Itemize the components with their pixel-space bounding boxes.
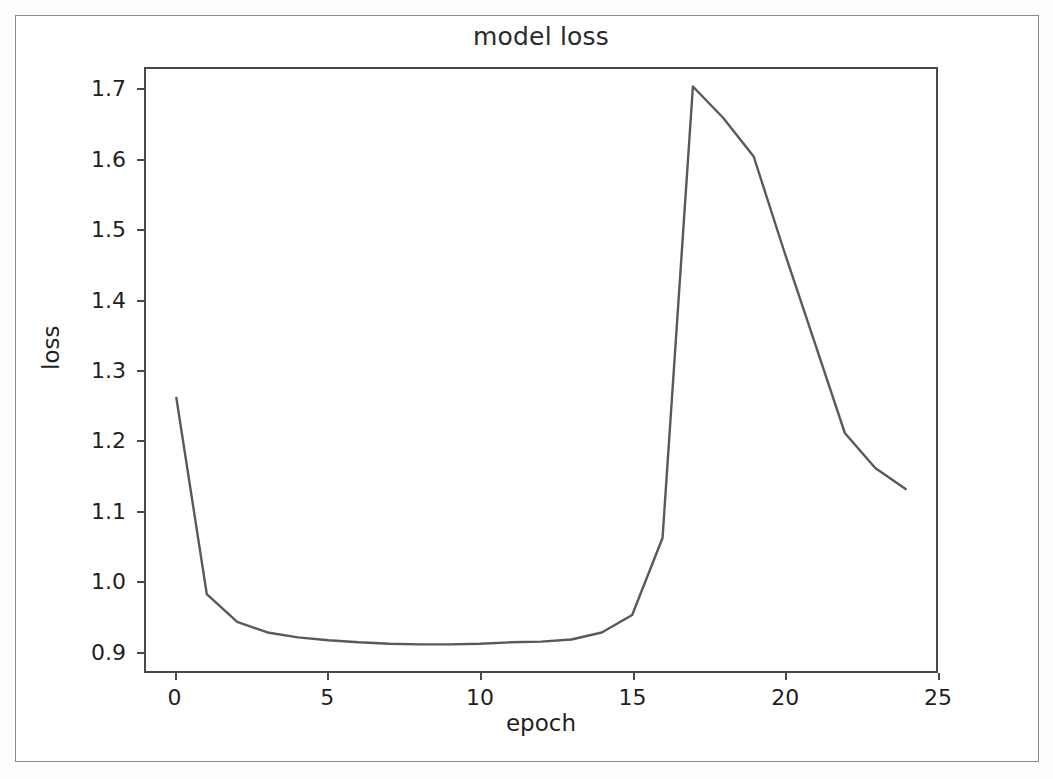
x-tick-mark bbox=[938, 673, 940, 680]
y-tick-mark bbox=[137, 229, 144, 231]
y-tick-label: 1.7 bbox=[64, 76, 126, 101]
loss-line-series bbox=[176, 87, 905, 645]
x-tick-mark bbox=[633, 673, 635, 680]
x-tick-label: 20 bbox=[755, 685, 815, 710]
matplotlib-figure: model loss 0.91.01.11.21.31.41.51.61.7 0… bbox=[0, 0, 1053, 779]
x-tick-label: 10 bbox=[450, 685, 510, 710]
x-tick-mark bbox=[480, 673, 482, 680]
y-tick-mark bbox=[137, 159, 144, 161]
y-tick-mark bbox=[137, 88, 144, 90]
y-tick-label: 1.3 bbox=[64, 358, 126, 383]
y-tick-mark bbox=[137, 652, 144, 654]
y-axis-label: loss bbox=[38, 326, 64, 370]
x-tick-label: 15 bbox=[603, 685, 663, 710]
x-tick-label: 0 bbox=[145, 685, 205, 710]
y-tick-label: 1.1 bbox=[64, 498, 126, 523]
y-tick-label: 1.0 bbox=[64, 569, 126, 594]
x-tick-mark bbox=[785, 673, 787, 680]
screenshot-page: model loss 0.91.01.11.21.31.41.51.61.7 0… bbox=[0, 0, 1053, 779]
x-tick-label: 5 bbox=[297, 685, 357, 710]
plot-area bbox=[144, 67, 938, 673]
x-tick-label: 25 bbox=[908, 685, 968, 710]
y-tick-label: 1.4 bbox=[64, 287, 126, 312]
y-tick-mark bbox=[137, 370, 144, 372]
y-tick-mark bbox=[137, 511, 144, 513]
x-axis-label: epoch bbox=[144, 710, 938, 736]
loss-curve-svg bbox=[146, 69, 936, 671]
y-tick-label: 1.6 bbox=[64, 146, 126, 171]
x-tick-mark bbox=[175, 673, 177, 680]
x-tick-mark bbox=[327, 673, 329, 680]
y-tick-mark bbox=[137, 581, 144, 583]
chart-title: model loss bbox=[144, 22, 938, 51]
y-tick-label: 1.2 bbox=[64, 428, 126, 453]
y-tick-mark bbox=[137, 440, 144, 442]
y-tick-label: 0.9 bbox=[64, 639, 126, 664]
y-tick-mark bbox=[137, 300, 144, 302]
y-tick-label: 1.5 bbox=[64, 217, 126, 242]
